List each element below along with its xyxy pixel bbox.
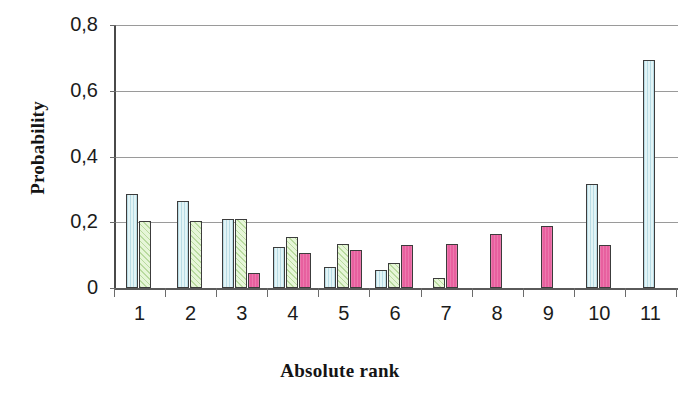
bar xyxy=(541,226,553,288)
bar xyxy=(324,267,336,288)
y-tick-label: 0 xyxy=(38,277,98,297)
x-tick-mark xyxy=(676,288,677,297)
bar xyxy=(350,250,362,288)
bar xyxy=(273,247,285,288)
x-tick-label: 2 xyxy=(171,302,211,325)
x-tick-mark xyxy=(267,288,268,297)
x-tick-label: 4 xyxy=(273,302,313,325)
bar xyxy=(401,245,413,288)
bar xyxy=(235,219,247,288)
bar-group xyxy=(474,25,525,288)
bar xyxy=(139,221,151,288)
y-axis-tick-labels: 0,80,60,40,20 xyxy=(34,0,98,394)
bar-group xyxy=(525,25,576,288)
bar-group xyxy=(218,25,269,288)
x-tick-label: 7 xyxy=(426,302,466,325)
x-tick-mark xyxy=(472,288,473,297)
x-tick-label: 3 xyxy=(222,302,262,325)
y-tick-label: 0,8 xyxy=(38,14,98,34)
y-tick-label: 0,4 xyxy=(38,146,98,166)
x-tick-mark xyxy=(318,288,319,297)
x-tick-mark xyxy=(369,288,370,297)
bar xyxy=(433,278,445,288)
bar-group xyxy=(423,25,474,288)
bar xyxy=(388,263,400,288)
bar xyxy=(177,201,189,288)
bar xyxy=(286,237,298,288)
bar xyxy=(599,245,611,288)
bar xyxy=(643,60,655,288)
x-tick-label: 1 xyxy=(120,302,160,325)
y-tick-label: 0,6 xyxy=(38,80,98,100)
x-tick-mark xyxy=(574,288,575,297)
bar xyxy=(248,273,260,288)
plot-area xyxy=(114,25,678,290)
x-tick-label: 11 xyxy=(630,302,670,325)
bar xyxy=(222,219,234,288)
x-axis: 1234567891011 xyxy=(114,288,678,328)
x-tick-label: 5 xyxy=(324,302,364,325)
x-tick-label: 6 xyxy=(375,302,415,325)
bar-group xyxy=(167,25,218,288)
bar-group xyxy=(320,25,371,288)
x-tick-label: 9 xyxy=(528,302,568,325)
bar xyxy=(337,244,349,288)
bar-group xyxy=(269,25,320,288)
bar xyxy=(190,221,202,288)
x-tick-mark xyxy=(523,288,524,297)
x-tick-mark xyxy=(216,288,217,297)
y-tick-label: 0,2 xyxy=(38,211,98,231)
bar-group xyxy=(371,25,422,288)
bar xyxy=(586,184,598,288)
bar-group xyxy=(627,25,678,288)
bar xyxy=(126,194,138,288)
bar xyxy=(375,270,387,288)
x-tick-label: 10 xyxy=(579,302,619,325)
bar xyxy=(446,244,458,288)
x-tick-mark xyxy=(165,288,166,297)
x-tick-mark xyxy=(114,288,115,297)
bar xyxy=(490,234,502,288)
bar-group xyxy=(116,25,167,288)
bar xyxy=(299,253,311,288)
x-tick-mark xyxy=(421,288,422,297)
bar-group xyxy=(576,25,627,288)
bars-container xyxy=(116,25,678,288)
x-axis-title: Absolute rank xyxy=(0,360,680,382)
x-tick-mark xyxy=(625,288,626,297)
bar-chart-figure: Probability 0,80,60,40,20 1234567891011 … xyxy=(0,0,680,394)
x-tick-label: 8 xyxy=(477,302,517,325)
